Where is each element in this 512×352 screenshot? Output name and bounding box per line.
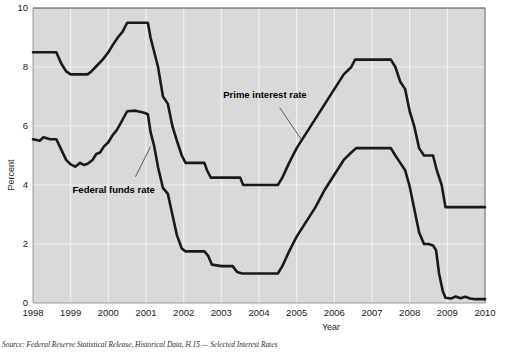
x-tick-2003: 2003 [211, 307, 232, 318]
x-tick-2005: 2005 [286, 307, 307, 318]
x-axis-tick-labels: 1998199920002001200220032004200520062007… [22, 307, 495, 318]
x-tick-2000: 2000 [98, 307, 119, 318]
series-label-federal-funds-rate: Federal funds rate [73, 184, 155, 195]
x-tick-2002: 2002 [173, 307, 194, 318]
y-tick-6: 6 [23, 120, 28, 131]
x-tick-2009: 2009 [437, 307, 458, 318]
series-label-prime-interest-rate: Prime interest rate [223, 89, 306, 100]
y-tick-2: 2 [23, 238, 28, 249]
x-tick-2001: 2001 [135, 307, 156, 318]
y-axis-title: Percent [6, 159, 16, 191]
x-tick-2010: 2010 [474, 307, 495, 318]
x-tick-1998: 1998 [22, 307, 43, 318]
figure-container: 0246810 19981999200020012002200320042005… [0, 0, 512, 352]
x-tick-2007: 2007 [361, 307, 382, 318]
x-tick-2004: 2004 [248, 307, 269, 318]
y-axis-tick-labels: 0246810 [17, 2, 28, 308]
source-note: Source: Federal Reserve Statistical Rele… [2, 340, 510, 349]
x-tick-2008: 2008 [399, 307, 420, 318]
y-tick-4: 4 [23, 179, 28, 190]
x-tick-1999: 1999 [60, 307, 81, 318]
y-tick-8: 8 [23, 61, 28, 72]
x-axis-title: Year [322, 322, 340, 332]
y-tick-10: 10 [17, 2, 28, 13]
interest-rate-line-chart: 0246810 19981999200020012002200320042005… [0, 0, 512, 340]
x-tick-2006: 2006 [324, 307, 345, 318]
